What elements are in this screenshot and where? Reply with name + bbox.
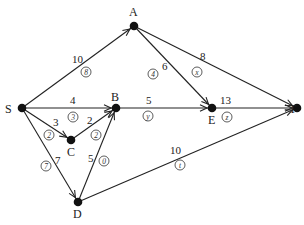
- node-label: S: [5, 102, 12, 116]
- edge-capacity-label: 5: [88, 152, 94, 164]
- node-a: A: [129, 5, 138, 30]
- node-d: D: [73, 198, 82, 221]
- node-e: E: [208, 104, 217, 127]
- edge-flow-badge: 0: [99, 156, 109, 166]
- node-dot-icon: [130, 22, 139, 31]
- edge-flow-value: 3: [70, 113, 75, 122]
- edge-capacity-label: 3: [53, 116, 59, 128]
- edge-capacity-label: 2: [87, 114, 93, 126]
- arrowhead-icon: [69, 190, 75, 198]
- edge-flow-badge: 8: [81, 67, 91, 77]
- edge-flow-value: 2: [94, 131, 98, 140]
- edge-flow-badge: x: [192, 67, 202, 77]
- edge-flow-badge: 2: [91, 130, 101, 140]
- node-label: D: [73, 207, 82, 221]
- edge-capacity-label: 5: [146, 94, 152, 106]
- edge-flow-badge: y: [143, 111, 153, 121]
- node-dot-icon: [74, 198, 83, 207]
- edge-flow-value: 2: [47, 131, 51, 140]
- nodes-layer: SABETCD: [5, 5, 301, 221]
- node-c: C: [67, 136, 76, 159]
- node-b: B: [111, 90, 120, 112]
- edge-flow-badge: 2: [44, 130, 54, 140]
- edge-line: [134, 26, 297, 108]
- edge-capacity-label: 7: [55, 154, 61, 166]
- flow-network-diagram: 1084332772250648x5y13z10t SABETCD: [0, 0, 304, 225]
- edge-flow-value: 8: [84, 68, 88, 77]
- edge-flow-value: y: [145, 112, 150, 121]
- edge-flow-badge: 3: [68, 112, 78, 122]
- edge-capacity-label: 6: [162, 60, 168, 72]
- edge-a-t: [134, 26, 297, 108]
- node-dot-icon: [18, 104, 27, 113]
- node-label: C: [67, 145, 75, 159]
- node-t: T: [289, 102, 301, 116]
- edges-layer: [22, 26, 297, 202]
- edge-flow-value: 7: [44, 162, 48, 171]
- edge-flow-badge: t: [175, 160, 185, 170]
- edge-flow-value: z: [225, 113, 229, 122]
- edge-flow-badge: 7: [41, 161, 51, 171]
- node-label: A: [129, 5, 138, 19]
- edge-capacity-label: 8: [200, 50, 206, 62]
- edge-flow-badge: 4: [148, 69, 158, 79]
- edge-b-e: [116, 105, 212, 111]
- edge-flow-value: 0: [102, 157, 106, 166]
- arrowhead-icon: [59, 131, 67, 138]
- edge-flow-value: 4: [151, 70, 155, 79]
- node-dot-icon: [208, 104, 217, 113]
- node-dot-icon: [112, 104, 121, 113]
- edge-capacity-label: 13: [220, 94, 232, 106]
- edge-s-b: [22, 105, 116, 111]
- edge-capacity-label: 10: [72, 53, 84, 65]
- edge-capacity-label: 4: [70, 94, 76, 106]
- edge-flow-value: x: [194, 68, 199, 77]
- edge-flow-badge: z: [222, 112, 232, 122]
- node-label: E: [208, 113, 215, 127]
- edge-capacity-label: 10: [170, 144, 182, 156]
- node-dot-icon: [67, 136, 76, 145]
- node-label: T: [289, 102, 297, 116]
- node-label: B: [111, 90, 119, 104]
- node-s: S: [5, 102, 26, 116]
